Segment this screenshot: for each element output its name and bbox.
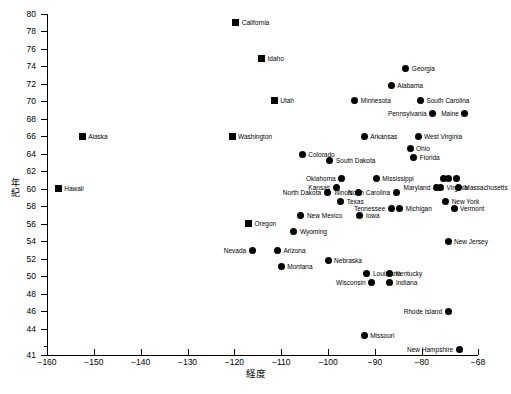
marker-square-icon [55, 185, 62, 192]
point-label: New Jersey [454, 238, 488, 245]
marker-square-icon [271, 97, 278, 104]
point-label: New York [452, 198, 479, 205]
point-label: Arizona [283, 247, 305, 254]
y-tick-64 [41, 154, 47, 155]
marker-circle-icon [368, 279, 375, 286]
point-label: Mississippi [382, 175, 413, 182]
marker-circle-icon [410, 154, 417, 161]
marker-circle-icon [445, 238, 452, 245]
point-label: Maine [441, 110, 459, 117]
point-label: Missouri [370, 332, 394, 339]
y-tick-label-46: 46 [12, 307, 36, 316]
point-label: Vermont [460, 205, 484, 212]
marker-circle-icon [417, 97, 424, 104]
y-tick-41 [41, 355, 47, 356]
y-tick-label-70: 70 [12, 97, 36, 106]
point-label: Massachusetts [464, 184, 507, 191]
chart-canvas: 年紀 経度 4144464850525456586062646668707274… [0, 0, 511, 394]
x-tick--150 [94, 349, 95, 355]
x-tick--68 [478, 349, 479, 355]
point-label: Oregon [254, 220, 276, 227]
point-label: Florida [420, 154, 440, 161]
x-tick-label--110: −110 [261, 358, 301, 367]
y-tick-label-64: 64 [12, 150, 36, 159]
y-tick-72 [41, 84, 47, 85]
point-label: Hawaii [64, 185, 84, 192]
y-tick-68 [41, 119, 47, 120]
marker-circle-icon [461, 110, 468, 117]
point-label: Idaho [268, 55, 284, 62]
marker-circle-icon [325, 257, 332, 264]
marker-circle-icon [396, 205, 403, 212]
y-tick-label-80: 80 [12, 10, 36, 19]
y-tick-label-74: 74 [12, 62, 36, 71]
y-tick-74 [41, 66, 47, 67]
point-label: Minnesota [361, 97, 391, 104]
marker-square-icon [232, 19, 239, 26]
point-label: Pennsylvania [388, 110, 427, 117]
point-label: Maryland [404, 184, 431, 191]
y-tick-52 [41, 259, 47, 260]
y-tick-label-66: 66 [12, 132, 36, 141]
marker-circle-icon [429, 110, 436, 117]
marker-circle-icon [337, 198, 344, 205]
marker-circle-icon [453, 175, 460, 182]
marker-circle-icon [326, 157, 333, 164]
point-label: New Hampshire [407, 346, 453, 353]
y-tick-56 [41, 224, 47, 225]
point-label: Nebraska [334, 257, 362, 264]
point-label: Iowa [366, 212, 380, 219]
y-minor-tick [44, 346, 47, 347]
marker-circle-icon [338, 175, 345, 182]
point-label: Tennessee [354, 205, 385, 212]
y-tick-54 [41, 241, 47, 242]
x-tick-label--140: −140 [121, 358, 161, 367]
x-tick-label--80: −80 [402, 358, 442, 367]
marker-circle-icon [290, 228, 297, 235]
marker-circle-icon [456, 346, 463, 353]
y-tick-label-60: 60 [12, 185, 36, 194]
marker-square-icon [229, 133, 236, 140]
y-tick-label-48: 48 [12, 290, 36, 299]
x-tick-label--130: −130 [168, 358, 208, 367]
x-tick--100 [328, 349, 329, 355]
y-tick-46 [41, 311, 47, 312]
y-tick-label-76: 76 [12, 45, 36, 54]
y-tick-44 [41, 329, 47, 330]
point-label: Kentucky [395, 270, 422, 277]
marker-circle-icon [249, 247, 256, 254]
y-tick-78 [41, 31, 47, 32]
x-tick-label--150: −150 [74, 358, 114, 367]
x-axis-line [47, 355, 478, 356]
y-tick-label-56: 56 [12, 220, 36, 229]
x-axis-title: 経度 [0, 369, 511, 379]
point-label: Michigan [406, 205, 432, 212]
point-label: Montana [287, 263, 312, 270]
marker-circle-icon [361, 332, 368, 339]
y-tick-76 [41, 49, 47, 50]
marker-circle-icon [415, 133, 422, 140]
marker-circle-icon [455, 184, 462, 191]
point-label: Nevada [224, 247, 246, 254]
point-label: Georgia [412, 65, 435, 72]
point-label: Wyoming [300, 228, 327, 235]
point-label: South Dakota [336, 157, 375, 164]
marker-circle-icon [278, 263, 285, 270]
marker-circle-icon [445, 175, 452, 182]
marker-circle-icon [363, 270, 370, 277]
y-tick-60 [41, 189, 47, 190]
y-tick-label-58: 58 [12, 202, 36, 211]
y-tick-70 [41, 101, 47, 102]
point-label: Indiana [396, 279, 417, 286]
marker-circle-icon [437, 184, 444, 191]
y-tick-50 [41, 276, 47, 277]
point-label: California [242, 19, 269, 26]
x-tick-label--90: −90 [355, 358, 395, 367]
marker-square-icon [258, 55, 265, 62]
point-label: New Mexico [307, 212, 342, 219]
bottom-caption [0, 386, 511, 394]
point-label: Utah [280, 97, 294, 104]
marker-circle-icon [351, 97, 358, 104]
point-label: Washington [238, 133, 272, 140]
point-label: North Carolina [348, 189, 390, 196]
